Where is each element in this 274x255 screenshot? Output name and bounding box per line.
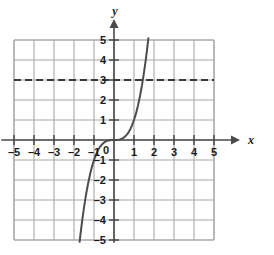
y-tick-label: –5 bbox=[94, 234, 106, 246]
x-tick-label: –2 bbox=[68, 146, 80, 158]
x-tick-label: 5 bbox=[211, 146, 217, 158]
x-tick-label: –5 bbox=[8, 146, 20, 158]
y-tick-label: 3 bbox=[100, 74, 106, 86]
origin-label: 0 bbox=[103, 144, 109, 156]
y-tick-label: 5 bbox=[100, 34, 106, 46]
x-tick-label: 2 bbox=[151, 146, 157, 158]
y-axis-arrowhead bbox=[110, 19, 119, 28]
graph-figure: –5–4–3–2–112345 –5–4–3–2–112345 0 x y bbox=[0, 0, 274, 255]
coordinate-plane-svg: –5–4–3–2–112345 –5–4–3–2–112345 0 x y bbox=[0, 0, 274, 255]
y-tick-label: –3 bbox=[94, 194, 106, 206]
x-tick-label: –4 bbox=[28, 146, 41, 158]
x-axis-arrowhead bbox=[231, 136, 240, 145]
x-tick-label: 3 bbox=[171, 146, 177, 158]
y-tick-label: 4 bbox=[100, 54, 107, 66]
x-axis-label: x bbox=[247, 133, 254, 147]
y-tick-label: –4 bbox=[94, 214, 107, 226]
y-tick-label: 2 bbox=[100, 94, 106, 106]
x-tick-label: –3 bbox=[48, 146, 60, 158]
y-tick-label: 1 bbox=[100, 114, 106, 126]
y-axis-label: y bbox=[110, 4, 118, 18]
y-tick-label: –2 bbox=[94, 174, 106, 186]
x-tick-label: 1 bbox=[131, 146, 137, 158]
x-tick-label: 4 bbox=[191, 146, 198, 158]
x-axis-tick-labels: –5–4–3–2–112345 bbox=[8, 146, 217, 158]
